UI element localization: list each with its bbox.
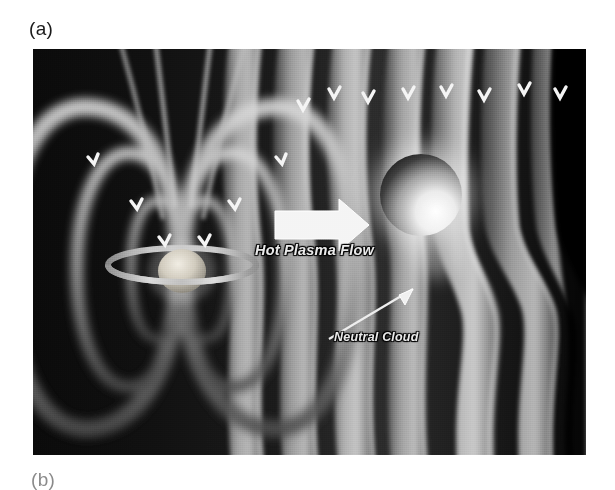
figure-panel-a: Hot Plasma Flow Neutral Cloud [33, 49, 586, 455]
panel-label-b: (b) [31, 470, 55, 489]
saturn-globe [158, 249, 206, 293]
neutral-cloud-glow [411, 211, 463, 279]
magnetosphere-illustration [33, 49, 586, 455]
panel-label-a: (a) [29, 19, 53, 38]
